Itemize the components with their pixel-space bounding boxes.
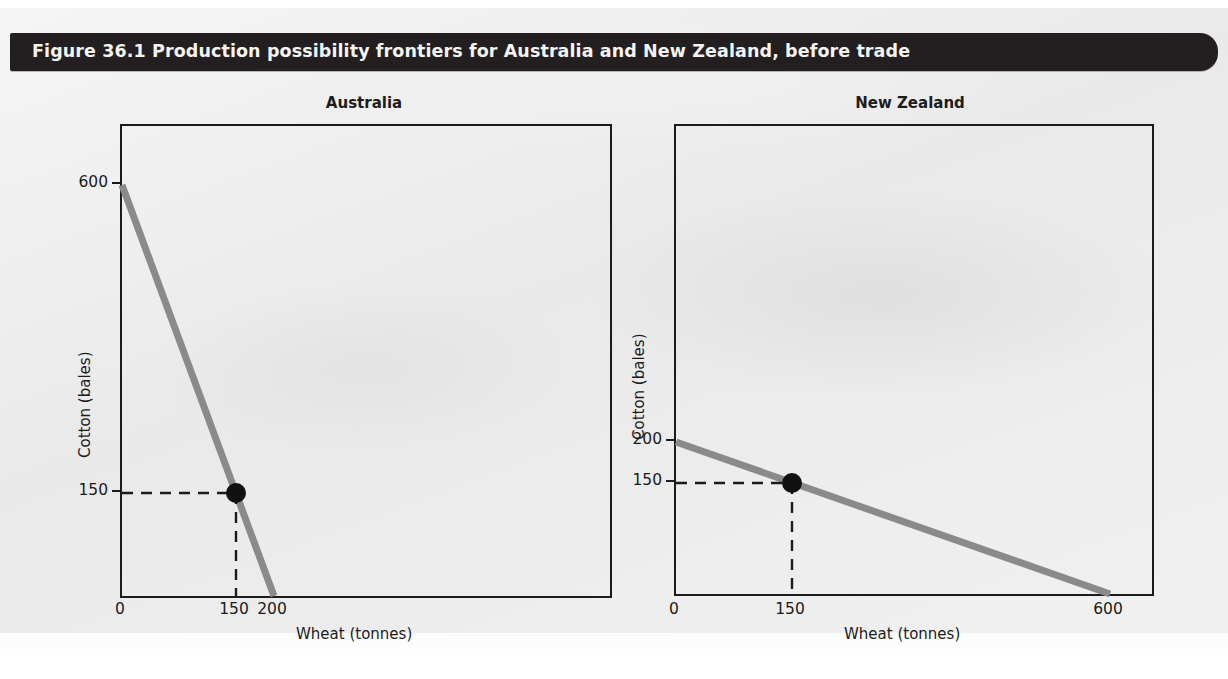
yaxis-title-new-zealand: Cotton (bales) [630,334,648,441]
ytick-mark-new-zealand-150 [666,480,676,482]
figure-title-bar: Figure 36.1 Production possibility front… [10,33,1218,71]
xaxis-title-new-zealand: Wheat (tonnes) [844,625,960,643]
figure-page: Figure 36.1 Production possibility front… [0,0,1228,679]
ppf-plot-australia [122,126,610,596]
xtick-label-new-zealand-150: 150 [772,600,808,618]
ytick-mark-australia-600 [112,182,122,184]
ytick-mark-new-zealand-200 [666,439,676,441]
ppf-line-new-zealand [676,442,1110,594]
chart-new-zealand: New Zealand 200 150 0 150 600 Wheat (ton… [594,88,1184,628]
yaxis-title-australia: Cotton (bales) [76,352,94,459]
xtick-label-australia-200: 200 [254,600,290,618]
xaxis-title-australia: Wheat (tonnes) [296,625,412,643]
xtick-label-new-zealand-600: 600 [1090,600,1126,618]
plot-frame-australia [120,124,612,598]
ytick-label-australia-600: 600 [58,173,108,191]
chart-australia: Australia 600 150 0 150 200 Wheat (tonne… [40,88,630,628]
xtick-label-new-zealand-0: 0 [656,600,692,618]
ppf-plot-new-zealand [676,126,1152,594]
production-point-marker-new-zealand [782,473,802,493]
ytick-label-new-zealand-150: 150 [612,471,662,489]
ytick-mark-australia-150 [112,490,122,492]
xtick-label-australia-0: 0 [102,600,138,618]
chart-title-new-zealand: New Zealand [594,94,1184,112]
production-point-marker-australia [226,483,246,503]
figure-title: Figure 36.1 Production possibility front… [32,41,910,61]
plot-frame-new-zealand [674,124,1154,596]
chart-title-australia: Australia [40,94,630,112]
ytick-label-australia-150: 150 [58,481,108,499]
ppf-line-australia [122,185,274,596]
xtick-label-australia-150: 150 [216,600,252,618]
page-bottom-margin [0,633,1228,679]
